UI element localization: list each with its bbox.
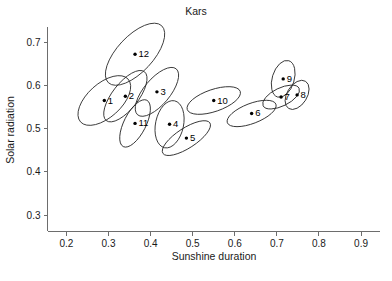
data-point-label: 5 [190, 132, 195, 143]
chart-figure: Kars 0.30.40.50.60.7 0.20.30.40.50.60.70… [0, 0, 392, 281]
data-point-label: 6 [255, 107, 260, 118]
data-point-marker[interactable] [155, 90, 158, 93]
data-point-marker[interactable] [133, 122, 136, 125]
page-title: Kars [185, 5, 207, 17]
data-point-label: 10 [217, 95, 228, 106]
data-point-marker[interactable] [103, 99, 106, 102]
y-tick-label: 0.7 [27, 37, 41, 48]
x-tick-label: 0.8 [312, 238, 326, 249]
x-tick-label: 0.9 [354, 238, 368, 249]
data-point-marker[interactable] [212, 99, 215, 102]
data-point-marker[interactable] [133, 53, 136, 56]
data-point-label: 1 [108, 95, 113, 106]
scatter-plot: Kars 0.30.40.50.60.7 0.20.30.40.50.60.70… [0, 0, 392, 281]
data-point-label: 4 [173, 118, 178, 129]
x-tick-label: 0.5 [186, 238, 200, 249]
x-tick-label: 0.6 [228, 238, 242, 249]
data-point-label: 12 [139, 48, 150, 59]
data-point-marker[interactable] [168, 123, 171, 126]
data-point-label: 8 [301, 89, 306, 100]
data-point-label: 7 [285, 91, 290, 102]
data-point-marker[interactable] [185, 136, 188, 139]
x-axis-ticks: 0.20.30.40.50.60.70.80.9 [59, 232, 368, 249]
y-tick-label: 0.3 [27, 210, 41, 221]
x-tick-label: 0.3 [102, 238, 116, 249]
data-point-marker[interactable] [124, 94, 127, 97]
data-point-label: 3 [160, 86, 165, 97]
plot-title-group: Kars [185, 5, 207, 17]
axes [48, 27, 381, 232]
data-point-label: 11 [139, 117, 149, 128]
data-point-marker[interactable] [279, 95, 282, 98]
x-tick-label: 0.4 [144, 238, 158, 249]
y-axis-ticks: 0.30.40.50.60.7 [27, 37, 48, 221]
y-tick-label: 0.6 [27, 80, 41, 91]
x-tick-label: 0.2 [59, 238, 73, 249]
data-point-label: 2 [129, 90, 134, 101]
data-point-marker[interactable] [281, 77, 284, 80]
data-point-marker[interactable] [295, 93, 298, 96]
y-axis-label: Solar radiation [4, 96, 16, 164]
data-point-marker[interactable] [250, 112, 253, 115]
data-point-label: 9 [287, 73, 292, 84]
y-tick-label: 0.5 [27, 123, 41, 134]
y-tick-label: 0.4 [27, 166, 41, 177]
x-axis-label: Sunshine duration [172, 250, 257, 262]
x-tick-label: 0.7 [270, 238, 284, 249]
